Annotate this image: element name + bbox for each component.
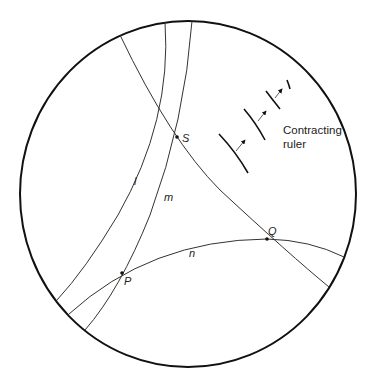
geodesic-l: [57, 22, 166, 300]
label-p: P: [124, 275, 132, 287]
geodesic-sq: [120, 35, 329, 287]
point-q: [265, 237, 269, 241]
label-q: Q: [268, 225, 277, 237]
label-n: n: [189, 247, 195, 259]
label-m: m: [164, 191, 173, 203]
label-s: S: [182, 132, 190, 144]
annotation-line1: Contracting: [283, 124, 342, 136]
disk-boundary: [20, 21, 356, 367]
annotation-line2: ruler: [283, 138, 306, 150]
point-s: [175, 135, 179, 139]
geodesic-m: [85, 21, 192, 330]
label-l: l: [134, 175, 137, 187]
geodesic-n: [69, 239, 344, 314]
contracting-ruler-icon: [219, 80, 290, 173]
hyperbolic-disk-diagram: S Q P l m n Contracting ruler: [0, 0, 372, 381]
